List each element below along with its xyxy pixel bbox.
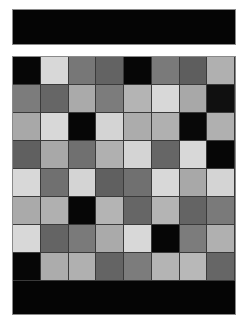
tile-r6-c2[interactable]	[41, 197, 69, 225]
tile-r2-c8[interactable]	[207, 85, 235, 113]
tile-r5-c8[interactable]	[207, 169, 235, 197]
tile-r8-c3[interactable]	[69, 253, 97, 281]
tile-r2-c5[interactable]	[124, 85, 152, 113]
tile-r8-c7[interactable]	[180, 253, 208, 281]
tile-r3-c7[interactable]	[180, 113, 208, 141]
tile-r4-c8[interactable]	[207, 141, 235, 169]
tile-grid	[13, 57, 235, 281]
tile-r7-c1[interactable]	[13, 225, 41, 253]
tile-r8-c4[interactable]	[96, 253, 124, 281]
tile-r5-c7[interactable]	[180, 169, 208, 197]
tile-r6-c4[interactable]	[96, 197, 124, 225]
tile-r5-c3[interactable]	[69, 169, 97, 197]
tile-r1-c8[interactable]	[207, 57, 235, 85]
tile-r7-c7[interactable]	[180, 225, 208, 253]
tile-r2-c2[interactable]	[41, 85, 69, 113]
top-bar	[13, 10, 235, 44]
tile-r6-c5[interactable]	[124, 197, 152, 225]
tile-r6-c7[interactable]	[180, 197, 208, 225]
tile-r4-c1[interactable]	[13, 141, 41, 169]
tile-r2-c4[interactable]	[96, 85, 124, 113]
tile-r1-c2[interactable]	[41, 57, 69, 85]
tile-r1-c1[interactable]	[13, 57, 41, 85]
tile-r2-c1[interactable]	[13, 85, 41, 113]
tile-r8-c2[interactable]	[41, 253, 69, 281]
tile-r8-c8[interactable]	[207, 253, 235, 281]
tile-board	[13, 57, 235, 314]
tile-r7-c3[interactable]	[69, 225, 97, 253]
tile-r7-c8[interactable]	[207, 225, 235, 253]
tile-r4-c7[interactable]	[180, 141, 208, 169]
tile-r3-c8[interactable]	[207, 113, 235, 141]
tile-r6-c3[interactable]	[69, 197, 97, 225]
tile-r7-c6[interactable]	[152, 225, 180, 253]
tile-r4-c2[interactable]	[41, 141, 69, 169]
bottom-bar	[13, 281, 235, 314]
tile-r7-c2[interactable]	[41, 225, 69, 253]
tile-r5-c2[interactable]	[41, 169, 69, 197]
tile-r3-c5[interactable]	[124, 113, 152, 141]
tile-r4-c3[interactable]	[69, 141, 97, 169]
tile-r2-c6[interactable]	[152, 85, 180, 113]
tile-r8-c5[interactable]	[124, 253, 152, 281]
tile-r7-c5[interactable]	[124, 225, 152, 253]
tile-r3-c2[interactable]	[41, 113, 69, 141]
tile-r1-c3[interactable]	[69, 57, 97, 85]
tile-r6-c1[interactable]	[13, 197, 41, 225]
tile-r3-c3[interactable]	[69, 113, 97, 141]
tile-r1-c5[interactable]	[124, 57, 152, 85]
tile-r3-c6[interactable]	[152, 113, 180, 141]
tile-r1-c7[interactable]	[180, 57, 208, 85]
tile-r6-c8[interactable]	[207, 197, 235, 225]
tile-r1-c4[interactable]	[96, 57, 124, 85]
tile-r7-c4[interactable]	[96, 225, 124, 253]
tile-r5-c1[interactable]	[13, 169, 41, 197]
tile-r2-c3[interactable]	[69, 85, 97, 113]
tile-r4-c6[interactable]	[152, 141, 180, 169]
tile-r5-c6[interactable]	[152, 169, 180, 197]
tile-r8-c1[interactable]	[13, 253, 41, 281]
tile-r2-c7[interactable]	[180, 85, 208, 113]
tile-r8-c6[interactable]	[152, 253, 180, 281]
tile-r3-c1[interactable]	[13, 113, 41, 141]
tile-r4-c5[interactable]	[124, 141, 152, 169]
tile-r6-c6[interactable]	[152, 197, 180, 225]
tile-r5-c4[interactable]	[96, 169, 124, 197]
tile-r1-c6[interactable]	[152, 57, 180, 85]
tile-r5-c5[interactable]	[124, 169, 152, 197]
tile-r4-c4[interactable]	[96, 141, 124, 169]
tile-r3-c4[interactable]	[96, 113, 124, 141]
